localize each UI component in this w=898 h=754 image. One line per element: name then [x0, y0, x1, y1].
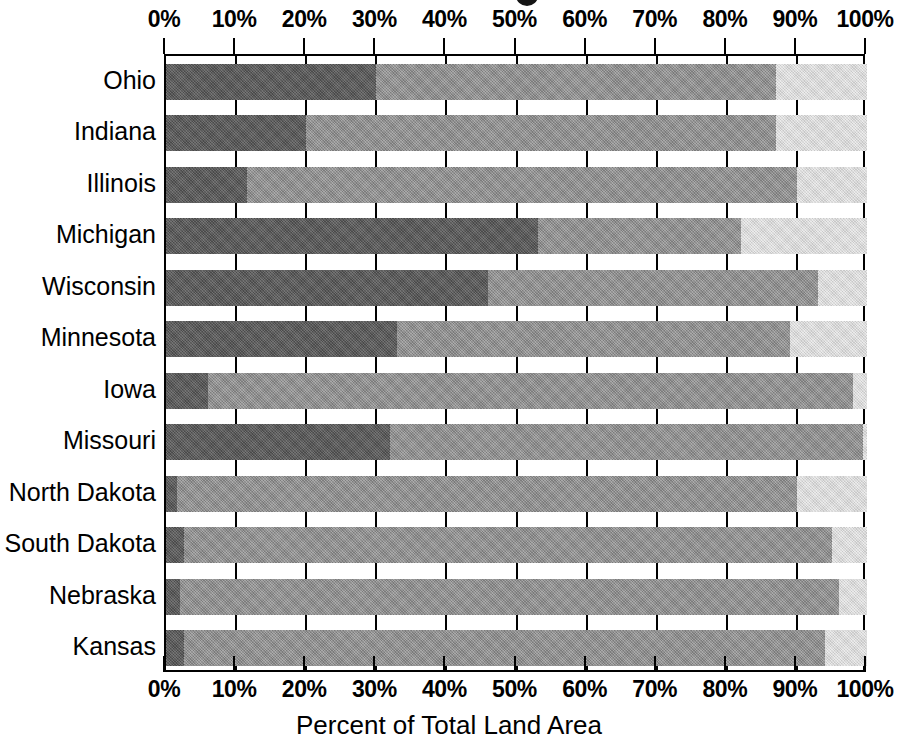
- x-tick-label-bottom-80: 80%: [702, 676, 747, 702]
- bar-segment-segment-a: [166, 476, 177, 512]
- x-tick-label-top-60: 60%: [562, 6, 607, 32]
- bar-segment-segment-b: [208, 373, 853, 409]
- x-tick-mark-top-100: [864, 38, 866, 54]
- y-category-label-wisconsin: Wisconsin: [42, 274, 156, 299]
- x-tick-label-bottom-90: 90%: [772, 676, 817, 702]
- bar-segment-segment-a: [166, 579, 180, 615]
- bar-segment-segment-b: [180, 579, 839, 615]
- x-tick-label-bottom-50: 50%: [492, 676, 537, 702]
- y-category-label-north-dakota: North Dakota: [9, 480, 156, 505]
- bar-segment-segment-a: [166, 270, 488, 306]
- x-tick-label-top-50: 50%: [492, 6, 537, 32]
- bar-segment-segment-c: [863, 424, 867, 460]
- x-tick-label-top-80: 80%: [702, 6, 747, 32]
- bar-segment-segment-b: [538, 218, 741, 254]
- bar-segment-segment-b: [390, 424, 863, 460]
- x-tick-mark-top-70: [654, 38, 656, 54]
- bar-segment-segment-b: [184, 527, 832, 563]
- bar-segment-segment-c: [818, 270, 867, 306]
- x-tick-label-top-90: 90%: [772, 6, 817, 32]
- x-tick-mark-bottom-40: [443, 656, 445, 672]
- bar-segment-segment-a: [166, 115, 306, 151]
- bar-segment-segment-c: [790, 321, 867, 357]
- x-tick-mark-top-40: [443, 38, 445, 54]
- x-tick-mark-bottom-60: [584, 656, 586, 672]
- bar-segment-segment-b: [376, 64, 776, 100]
- x-tick-label-top-40: 40%: [422, 6, 467, 32]
- x-axis-tick-labels-bottom: 0%10%20%30%40%50%60%70%80%90%100%: [0, 676, 898, 706]
- x-tick-label-top-70: 70%: [632, 6, 677, 32]
- bar-row: [166, 373, 867, 409]
- x-tick-mark-bottom-20: [303, 656, 305, 672]
- bar-row: [166, 115, 867, 151]
- x-tick-mark-top-20: [303, 38, 305, 54]
- x-tick-mark-top-60: [584, 38, 586, 54]
- plot-area: [164, 54, 865, 672]
- x-tick-label-top-30: 30%: [352, 6, 397, 32]
- bar-segment-segment-c: [797, 476, 867, 512]
- bar-segment-segment-c: [832, 527, 867, 563]
- bar-segment-segment-c: [776, 115, 867, 151]
- bar-row: [166, 64, 867, 100]
- x-tick-label-top-0: 0%: [148, 6, 180, 32]
- x-tick-label-bottom-60: 60%: [562, 676, 607, 702]
- bar-segment-segment-a: [166, 424, 390, 460]
- x-tick-mark-top-0: [163, 38, 165, 54]
- bar-segment-segment-a: [166, 630, 184, 666]
- bar-segment-segment-b: [184, 630, 825, 666]
- x-tick-label-bottom-70: 70%: [632, 676, 677, 702]
- x-tick-label-bottom-40: 40%: [422, 676, 467, 702]
- bar-row: [166, 424, 867, 460]
- y-category-label-kansas: Kansas: [73, 634, 156, 659]
- bar-segment-segment-a: [166, 373, 208, 409]
- x-tick-mark-bottom-90: [794, 656, 796, 672]
- stacked-bar-chart: 0%10%20%30%40%50%60%70%80%90%100% OhioIn…: [0, 0, 898, 754]
- y-category-label-illinois: Illinois: [87, 171, 156, 196]
- x-tick-label-top-100: 100%: [836, 6, 893, 32]
- bar-segment-segment-a: [166, 321, 397, 357]
- x-axis-tick-labels-top: 0%10%20%30%40%50%60%70%80%90%100%: [0, 6, 898, 32]
- bar-row: [166, 476, 867, 512]
- bar-segment-segment-b: [177, 476, 797, 512]
- x-tick-label-bottom-100: 100%: [836, 676, 893, 702]
- bar-segment-segment-b: [488, 270, 817, 306]
- bar-row: [166, 167, 867, 203]
- x-tick-mark-top-30: [373, 38, 375, 54]
- bar-segment-segment-b: [397, 321, 790, 357]
- x-tick-label-bottom-10: 10%: [212, 676, 257, 702]
- y-category-label-missouri: Missouri: [63, 428, 156, 453]
- y-category-label-minnesota: Minnesota: [41, 325, 156, 350]
- y-category-label-indiana: Indiana: [74, 119, 156, 144]
- bar-row: [166, 527, 867, 563]
- x-tick-mark-bottom-50: [514, 656, 516, 672]
- bar-row: [166, 630, 867, 666]
- y-category-label-ohio: Ohio: [103, 68, 156, 93]
- bar-segment-segment-c: [797, 167, 867, 203]
- bar-segment-segment-c: [825, 630, 867, 666]
- x-tick-mark-bottom-100: [864, 656, 866, 672]
- x-tick-label-top-20: 20%: [282, 6, 327, 32]
- bar-row: [166, 270, 867, 306]
- x-tick-mark-bottom-70: [654, 656, 656, 672]
- x-axis-title: Percent of Total Land Area: [0, 712, 898, 738]
- bar-segment-segment-c: [741, 218, 867, 254]
- y-category-label-nebraska: Nebraska: [49, 583, 156, 608]
- bar-segment-segment-a: [166, 167, 247, 203]
- bar-row: [166, 321, 867, 357]
- bar-segment-segment-c: [839, 579, 867, 615]
- x-tick-label-bottom-0: 0%: [148, 676, 180, 702]
- x-tick-mark-top-80: [724, 38, 726, 54]
- x-tick-mark-bottom-80: [724, 656, 726, 672]
- bar-segment-segment-a: [166, 218, 538, 254]
- x-tick-label-top-10: 10%: [212, 6, 257, 32]
- bar-row: [166, 579, 867, 615]
- x-tick-mark-bottom-10: [233, 656, 235, 672]
- bar-segment-segment-c: [853, 373, 867, 409]
- x-tick-mark-bottom-30: [373, 656, 375, 672]
- x-tick-mark-bottom-0: [163, 656, 165, 672]
- x-tick-mark-top-10: [233, 38, 235, 54]
- x-tick-mark-top-50: [514, 38, 516, 54]
- y-category-label-south-dakota: South Dakota: [5, 531, 157, 556]
- x-tick-label-bottom-20: 20%: [282, 676, 327, 702]
- bar-segment-segment-a: [166, 64, 376, 100]
